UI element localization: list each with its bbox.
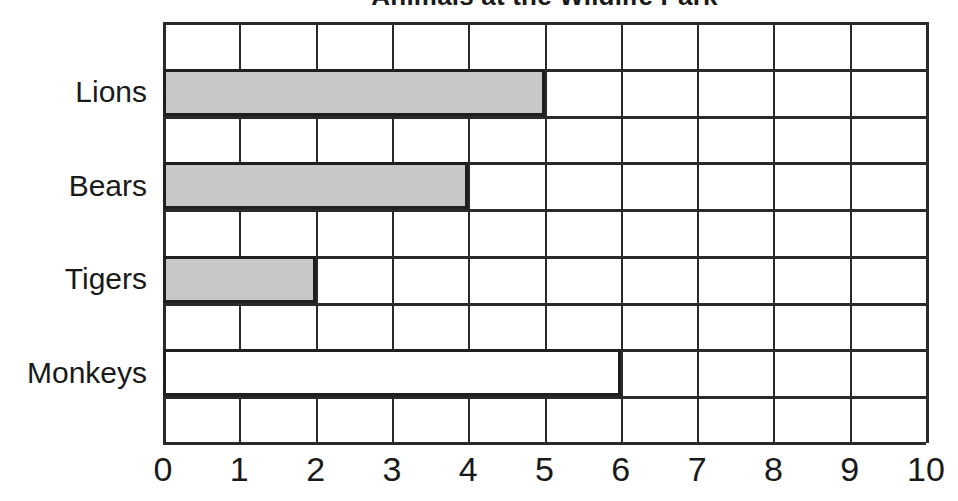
gridline-y-2: [163, 116, 926, 119]
chart-title: Animals at the Wildlife Park: [163, 0, 926, 12]
tick-label-4: 4: [438, 452, 498, 486]
category-label-lions: Lions: [0, 77, 155, 107]
plot-area: [163, 22, 926, 443]
tick-label-6: 6: [591, 452, 651, 486]
gridline-y-6: [163, 303, 926, 306]
category-label-tigers: Tigers: [0, 264, 155, 294]
bar-monkeys: [163, 349, 621, 396]
gridline-y-4: [163, 209, 926, 212]
gridline-y-9: [163, 442, 926, 445]
bar-lions: [163, 69, 545, 116]
gridline-y-8: [163, 396, 926, 399]
gridline-x-6: [621, 22, 623, 443]
gridline-y-0: [163, 22, 926, 25]
tick-label-8: 8: [743, 452, 803, 486]
bar-chart: Animals at the Wildlife Park LionsBearsT…: [0, 0, 958, 501]
tick-label-10: 10: [896, 452, 956, 486]
gridline-x-7: [697, 22, 699, 443]
bar-bears: [163, 162, 468, 209]
category-label-bears: Bears: [0, 171, 155, 201]
tick-label-2: 2: [286, 452, 346, 486]
gridline-x-8: [773, 22, 775, 443]
gridline-x-9: [850, 22, 852, 443]
tick-label-7: 7: [667, 452, 727, 486]
tick-label-0: 0: [133, 452, 193, 486]
tick-label-3: 3: [362, 452, 422, 486]
gridline-x-10: [926, 22, 929, 443]
category-label-monkeys: Monkeys: [0, 358, 155, 388]
tick-label-5: 5: [515, 452, 575, 486]
bar-tigers: [163, 256, 316, 303]
tick-label-9: 9: [820, 452, 880, 486]
tick-label-1: 1: [209, 452, 269, 486]
